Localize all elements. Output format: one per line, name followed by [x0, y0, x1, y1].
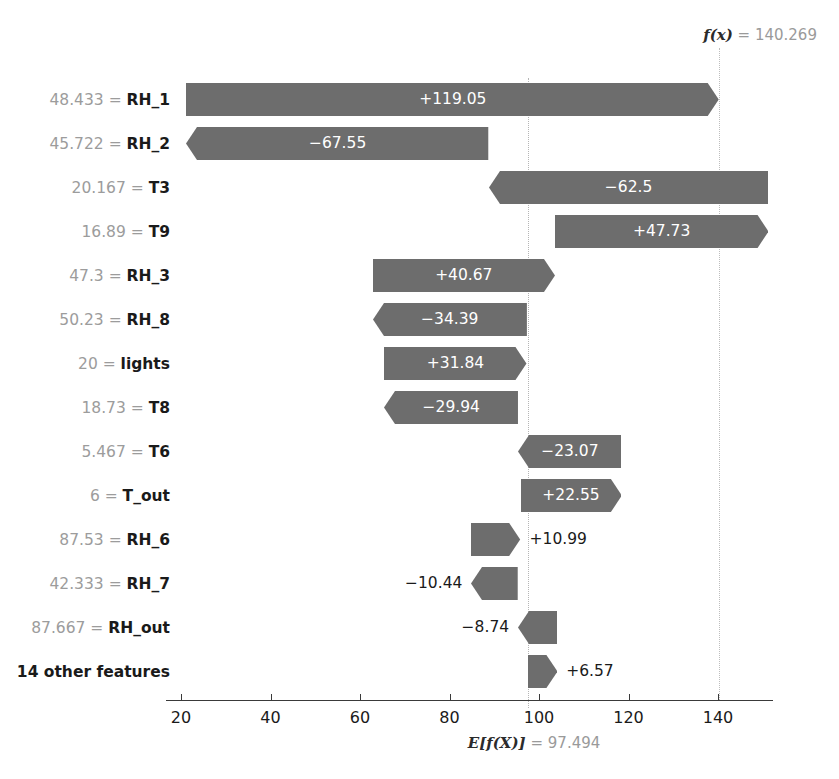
axis-tick [718, 694, 719, 700]
value-label: +40.67 [373, 254, 555, 297]
feature-name: RH_3 [127, 267, 170, 285]
feature-name: T9 [149, 223, 170, 241]
row-label: 47.3 = RH_3 [69, 254, 170, 298]
row-label: 87.667 = RH_out [31, 606, 170, 650]
chart-row: 42.333 = RH_7−10.44 [0, 562, 839, 606]
row-label: 42.333 = RH_7 [49, 562, 170, 606]
feature-name: lights [121, 355, 170, 373]
axis-tick [450, 694, 451, 700]
row-label: 50.23 = RH_8 [59, 298, 170, 342]
row-label: 87.53 = RH_6 [59, 518, 170, 562]
chart-row: 14 other features+6.57 [0, 650, 839, 694]
axis-tick-label: 140 [703, 708, 734, 727]
chart-row: 16.89 = T9+47.73 [0, 210, 839, 254]
base-value-number: 97.494 [548, 734, 601, 752]
axis-tick-label: 80 [439, 708, 459, 727]
chart-row: 48.433 = RH_1+119.05 [0, 78, 839, 122]
value-label: −67.55 [186, 122, 488, 165]
value-label: +119.05 [186, 78, 719, 121]
chart-row: 5.467 = T6−23.07 [0, 430, 839, 474]
row-label: 48.433 = RH_1 [49, 78, 170, 122]
row-label: 45.722 = RH_2 [49, 122, 170, 166]
feature-name: RH_2 [127, 135, 170, 153]
axis-tick [181, 694, 182, 700]
axis-tick [539, 694, 540, 700]
value-label: −23.07 [518, 430, 621, 473]
value-label: −29.94 [384, 386, 518, 429]
axis-tick-label: 40 [260, 708, 280, 727]
feature-name: T_out [123, 487, 170, 505]
value-label: +22.55 [521, 474, 622, 517]
shap-waterfall-plot: f(x) = 140.269E[f(X)] = 97.49448.433 = R… [0, 0, 839, 779]
value-bar [518, 611, 557, 644]
axis-tick [629, 694, 630, 700]
value-bar [528, 655, 557, 688]
feature-name: RH_8 [127, 311, 170, 329]
axis-tick [271, 694, 272, 700]
axis-tick-label: 100 [524, 708, 555, 727]
row-label: 18.73 = T8 [81, 386, 170, 430]
chart-row: 6 = T_out+22.55 [0, 474, 839, 518]
x-axis [166, 700, 773, 701]
value-label: −10.44 [405, 562, 462, 605]
chart-row: 50.23 = RH_8−34.39 [0, 298, 839, 342]
value-label: −34.39 [373, 298, 527, 341]
feature-name: RH_6 [127, 531, 170, 549]
value-label: −62.5 [489, 166, 769, 209]
base-value-label: E[f(X)] = 97.494 [468, 734, 601, 752]
value-label: +47.73 [555, 210, 769, 253]
base-value-symbol: E[f(X)] [468, 734, 526, 752]
row-label: 14 other features [17, 650, 170, 694]
chart-row: 87.53 = RH_6+10.99 [0, 518, 839, 562]
axis-tick-label: 120 [613, 708, 644, 727]
value-label: −8.74 [462, 606, 510, 649]
value-bar [471, 523, 520, 556]
feature-name: RH_7 [127, 575, 170, 593]
chart-row: 47.3 = RH_3+40.67 [0, 254, 839, 298]
feature-name: RH_out [108, 619, 170, 637]
axis-tick [360, 694, 361, 700]
feature-name: T3 [149, 179, 170, 197]
row-label: 16.89 = T9 [81, 210, 170, 254]
feature-name: T6 [149, 443, 170, 461]
feature-name: T8 [149, 399, 170, 417]
output-value-symbol: f(x) [703, 26, 733, 44]
output-value-label: f(x) = 140.269 [703, 26, 817, 44]
value-bar [471, 567, 518, 600]
value-label: +31.84 [384, 342, 526, 385]
feature-name: RH_1 [127, 91, 170, 109]
chart-row: 45.722 = RH_2−67.55 [0, 122, 839, 166]
row-label: 5.467 = T6 [81, 430, 170, 474]
chart-row: 87.667 = RH_out−8.74 [0, 606, 839, 650]
chart-row: 18.73 = T8−29.94 [0, 386, 839, 430]
value-label: +10.99 [530, 518, 587, 561]
chart-row: 20.167 = T3−62.5 [0, 166, 839, 210]
row-label: 20.167 = T3 [72, 166, 170, 210]
output-value-number: 140.269 [755, 26, 817, 44]
row-label: 20 = lights [78, 342, 170, 386]
axis-tick-label: 60 [350, 708, 370, 727]
value-label: +6.57 [566, 650, 614, 693]
row-label: 6 = T_out [90, 474, 170, 518]
chart-row: 20 = lights+31.84 [0, 342, 839, 386]
axis-tick-label: 20 [171, 708, 191, 727]
